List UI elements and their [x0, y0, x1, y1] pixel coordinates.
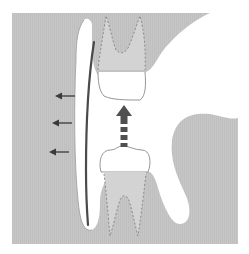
appliance-wire	[86, 42, 94, 225]
upper-tooth-crown	[98, 72, 145, 100]
diagram-canvas	[0, 0, 249, 254]
arrow-up-icon	[116, 105, 132, 124]
eruption-arrow	[116, 105, 132, 147]
dental-diagram	[0, 0, 249, 254]
lower-tooth-crown	[100, 146, 150, 172]
